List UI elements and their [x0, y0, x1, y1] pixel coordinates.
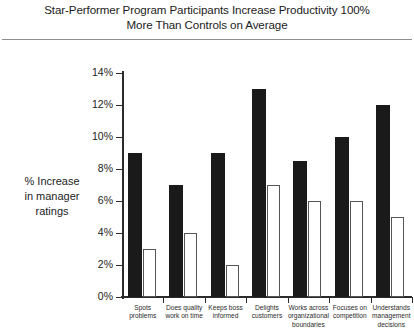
x-axis-category-label-line: Spots	[122, 304, 163, 312]
x-axis-category-label: Understandsmanagementdecisions	[371, 304, 412, 329]
x-axis-category-label-line: Understands	[371, 304, 412, 312]
x-tick-mark	[163, 297, 164, 303]
bar-controls	[267, 185, 280, 297]
bar-controls	[350, 201, 363, 297]
x-axis-category-label-line: competition	[329, 312, 370, 320]
x-axis-category-label-line: organizational	[288, 312, 329, 320]
x-axis-category-label-line: management	[371, 312, 412, 320]
chart-title-line-1: Star-Performer Program Participants Incr…	[0, 2, 414, 17]
y-tick-mark	[116, 297, 123, 298]
x-axis-category-label: Spotsproblems	[122, 304, 163, 321]
bar-controls	[391, 217, 404, 297]
bar-star-performers	[252, 89, 266, 297]
x-axis-category-label-line: problems	[122, 312, 163, 320]
x-tick-mark	[412, 297, 413, 303]
chart-page: Star-Performer Program Participants Incr…	[0, 0, 414, 336]
x-axis-category-label-line: decisions	[371, 321, 412, 329]
x-tick-mark	[288, 297, 289, 303]
bar-controls	[226, 265, 239, 297]
x-axis-category-label-line: Keeps boss	[205, 304, 246, 312]
x-tick-mark	[329, 297, 330, 303]
chart-title-line-2: More Than Controls on Average	[0, 17, 414, 32]
chart-title: Star-Performer Program Participants Incr…	[0, 2, 414, 32]
x-axis-category-label: Focuses oncompetition	[329, 304, 370, 321]
x-axis-category-label-line: Works across	[288, 304, 329, 312]
x-tick-mark	[371, 297, 372, 303]
y-axis-title-line-2: in manager	[4, 189, 100, 204]
x-tick-mark	[246, 297, 247, 303]
x-axis-category-label-line: Focuses on	[329, 304, 370, 312]
bar-star-performers	[376, 105, 390, 297]
bar-controls	[184, 233, 197, 297]
y-axis-title: % Increase in manager ratings	[4, 174, 100, 219]
x-axis-category-label-line: work on time	[163, 312, 204, 320]
title-divider	[2, 39, 412, 40]
x-axis-category-label: Works acrossorganizationalboundaries	[288, 304, 329, 329]
y-axis-title-line-3: ratings	[4, 204, 100, 219]
y-axis-title-line-1: % Increase	[4, 174, 100, 189]
bars-layer	[122, 73, 412, 297]
bar-star-performers	[335, 137, 349, 297]
x-axis-category-label: Delightscustomers	[246, 304, 287, 321]
x-axis-category-label: Keeps bossinformed	[205, 304, 246, 321]
bar-controls	[143, 249, 156, 297]
x-axis-category-label: Does qualitywork on time	[163, 304, 204, 321]
category-labels: SpotsproblemsDoes qualitywork on timeKee…	[122, 304, 412, 336]
x-axis-category-label-line: Does quality	[163, 304, 204, 312]
x-tick-mark	[205, 297, 206, 303]
x-axis-category-label-line: informed	[205, 312, 246, 320]
x-axis-category-label-line: boundaries	[288, 321, 329, 329]
bar-star-performers	[128, 153, 142, 297]
x-axis-category-label-line: Delights	[246, 304, 287, 312]
x-axis-category-label-line: customers	[246, 312, 287, 320]
bar-star-performers	[169, 185, 183, 297]
bar-controls	[308, 201, 321, 297]
bar-star-performers	[293, 161, 307, 297]
bar-star-performers	[211, 153, 225, 297]
